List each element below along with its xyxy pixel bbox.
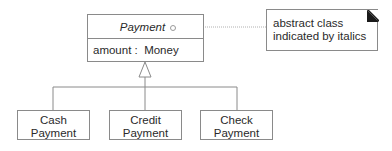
class-payment-attribute: amount : Money xyxy=(93,44,179,56)
label-line-2: Payment xyxy=(110,127,181,140)
class-payment-divider xyxy=(88,38,203,39)
class-name-anchor-circle-icon xyxy=(170,25,176,31)
class-credit-payment-label: Credit Payment xyxy=(110,114,181,140)
generalization-arrowhead xyxy=(139,62,151,77)
note-box: abstract class indicated by italics xyxy=(266,9,378,51)
note-folded-corner-icon xyxy=(267,10,379,52)
label-line-2: Payment xyxy=(18,127,89,140)
class-payment-name: Payment xyxy=(82,21,203,33)
label-line-1: Cash xyxy=(18,114,89,127)
class-cash-payment: Cash Payment xyxy=(17,110,90,140)
label-line-1: Check xyxy=(201,114,272,127)
class-cash-payment-label: Cash Payment xyxy=(18,114,89,140)
class-credit-payment: Credit Payment xyxy=(109,110,182,140)
class-check-payment-label: Check Payment xyxy=(201,114,272,140)
class-check-payment: Check Payment xyxy=(200,110,273,140)
label-line-1: Credit xyxy=(110,114,181,127)
class-payment: Payment amount : Money xyxy=(87,14,204,62)
label-line-2: Payment xyxy=(201,127,272,140)
